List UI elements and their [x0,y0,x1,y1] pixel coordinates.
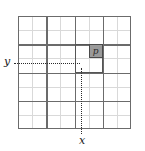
grid-major-line-horizontal [18,73,131,74]
grid-plate [18,16,131,129]
shaded-cell: p [89,44,103,58]
grid-major-line-horizontal [18,101,131,102]
grid-major-line-vertical [130,16,131,129]
grid-diagram: p y x [0,0,145,151]
grid-major-line-vertical [103,16,104,129]
y-axis-label: y [4,56,10,67]
y-guide-line [14,63,80,64]
x-guide-line [81,68,82,134]
shaded-cell-label: p [93,47,99,56]
grid-major-line-horizontal [18,128,131,129]
x-axis-label: x [79,135,85,146]
